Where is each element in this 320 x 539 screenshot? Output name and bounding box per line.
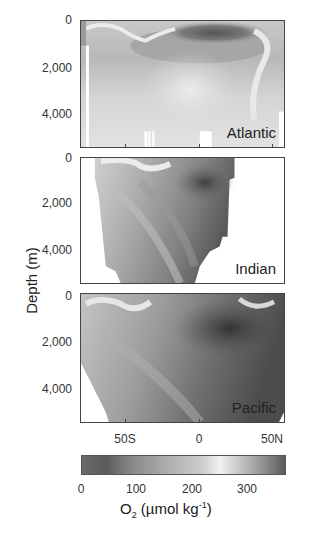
panel-label-atlantic: Atlantic	[227, 124, 276, 141]
colorbar-label: O2 (µmol kg-1)	[120, 500, 212, 520]
tick-mark	[125, 419, 126, 422]
ytick-0-atlantic: 0	[22, 13, 72, 27]
xtick-50n: 50N	[252, 432, 292, 446]
tick-mark	[199, 144, 200, 147]
xtick-50s: 50S	[105, 432, 145, 446]
colorbar-tick-0: 0	[66, 482, 96, 496]
y-axis-label: Depth (m)	[23, 236, 40, 326]
ytick-4000-pacific: 4,000	[22, 382, 72, 396]
tick-mark	[272, 419, 273, 422]
panel-label-pacific: Pacific	[232, 399, 276, 416]
colorbar-tick-300: 300	[232, 482, 262, 496]
panel-indian: Indian	[80, 157, 285, 284]
ytick-2000-indian: 2,000	[22, 196, 72, 210]
panel-pacific: Pacific	[80, 293, 285, 423]
ytick-2000-pacific: 2,000	[22, 335, 72, 349]
tick-mark	[125, 144, 126, 147]
ytick-4000-atlantic: 4,000	[22, 107, 72, 121]
colorbar-tick-200: 200	[177, 482, 207, 496]
colorbar-tick-100: 100	[121, 482, 151, 496]
panel-atlantic: Atlantic	[80, 20, 285, 148]
colorbar	[81, 455, 286, 475]
ytick-0-indian: 0	[22, 151, 72, 165]
ytick-2000-atlantic: 2,000	[22, 61, 72, 75]
xtick-0: 0	[179, 432, 219, 446]
tick-mark	[199, 419, 200, 422]
tick-mark	[272, 144, 273, 147]
panel-label-indian: Indian	[235, 260, 276, 277]
